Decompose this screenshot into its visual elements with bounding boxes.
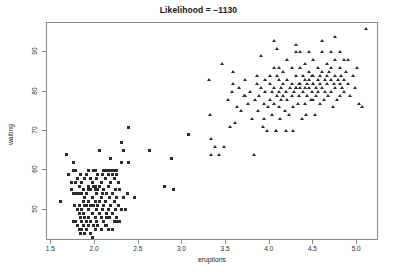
data-point-cluster-1 xyxy=(87,216,90,219)
data-point-cluster-1 xyxy=(80,208,83,211)
page-title: Likelihood = −1130 xyxy=(0,5,397,15)
data-point-cluster-2 xyxy=(265,129,269,132)
data-point-cluster-2 xyxy=(208,113,212,116)
data-point-cluster-2 xyxy=(338,50,342,53)
data-point-cluster-1 xyxy=(107,208,110,211)
data-point-cluster-2 xyxy=(262,102,266,105)
data-point-cluster-2 xyxy=(268,82,272,85)
data-point-cluster-2 xyxy=(288,86,292,89)
data-point-cluster-1 xyxy=(94,228,97,231)
data-point-cluster-1 xyxy=(82,188,85,191)
data-point-cluster-1 xyxy=(70,188,73,191)
data-point-cluster-2 xyxy=(283,109,287,112)
data-point-cluster-2 xyxy=(226,98,230,101)
data-point-cluster-1 xyxy=(94,185,97,188)
data-point-cluster-1 xyxy=(111,212,114,215)
data-point-cluster-2 xyxy=(300,117,304,120)
data-point-cluster-1 xyxy=(87,200,90,203)
data-point-cluster-2 xyxy=(275,94,279,97)
data-point-cluster-1 xyxy=(108,196,111,199)
x-tick-mark xyxy=(181,240,182,244)
data-point-cluster-2 xyxy=(323,78,327,81)
data-point-cluster-1 xyxy=(111,173,114,176)
data-point-cluster-1 xyxy=(87,224,90,227)
data-point-cluster-2 xyxy=(228,125,232,128)
data-point-cluster-2 xyxy=(322,98,326,101)
data-point-cluster-2 xyxy=(333,35,337,38)
data-point-cluster-1 xyxy=(80,192,83,195)
data-point-cluster-1 xyxy=(82,224,85,227)
data-point-cluster-1 xyxy=(74,169,77,172)
data-point-cluster-1 xyxy=(105,224,108,227)
data-point-cluster-2 xyxy=(355,66,359,69)
data-point-cluster-2 xyxy=(263,78,267,81)
data-point-cluster-2 xyxy=(259,54,263,57)
data-point-cluster-1 xyxy=(104,177,107,180)
data-point-cluster-2 xyxy=(303,62,307,65)
data-point-cluster-2 xyxy=(279,98,283,101)
data-point-cluster-1 xyxy=(124,208,127,211)
data-point-cluster-1 xyxy=(87,208,90,211)
data-point-cluster-2 xyxy=(310,90,314,93)
data-point-cluster-2 xyxy=(239,109,243,112)
y-tick-mark xyxy=(42,169,46,170)
data-point-cluster-1 xyxy=(98,200,101,203)
data-point-cluster-2 xyxy=(235,105,239,108)
data-point-cluster-2 xyxy=(207,78,211,81)
data-point-cluster-2 xyxy=(285,58,289,61)
data-point-cluster-2 xyxy=(292,90,296,93)
data-point-cluster-1 xyxy=(111,192,114,195)
y-axis-title: waiting xyxy=(7,115,14,155)
data-point-cluster-2 xyxy=(336,78,340,81)
y-tick-mark xyxy=(42,209,46,210)
data-point-cluster-1 xyxy=(85,228,88,231)
data-point-cluster-1 xyxy=(74,220,77,223)
data-point-cluster-2 xyxy=(230,90,234,93)
data-point-cluster-1 xyxy=(95,208,98,211)
data-point-cluster-2 xyxy=(316,78,320,81)
y-tick-label: 80 xyxy=(31,85,38,97)
data-point-cluster-2 xyxy=(217,153,221,156)
data-point-cluster-1 xyxy=(91,181,94,184)
data-point-cluster-1 xyxy=(120,208,123,211)
y-tick-mark xyxy=(42,91,46,92)
data-point-cluster-2 xyxy=(329,90,333,93)
data-point-cluster-1 xyxy=(109,157,112,160)
data-point-cluster-2 xyxy=(272,39,276,42)
data-point-cluster-2 xyxy=(231,82,235,85)
data-point-cluster-2 xyxy=(297,94,301,97)
data-point-cluster-2 xyxy=(296,102,300,105)
x-tick-mark xyxy=(94,240,95,244)
data-point-cluster-1 xyxy=(89,232,92,235)
data-point-cluster-2 xyxy=(325,74,329,77)
data-point-cluster-1 xyxy=(98,149,101,152)
data-point-cluster-1 xyxy=(102,220,105,223)
data-point-cluster-2 xyxy=(346,58,350,61)
data-point-cluster-1 xyxy=(85,192,88,195)
data-point-cluster-2 xyxy=(353,86,357,89)
data-point-cluster-2 xyxy=(252,153,256,156)
data-point-cluster-1 xyxy=(98,212,101,215)
x-tick-mark xyxy=(356,240,357,244)
data-point-cluster-1 xyxy=(133,196,136,199)
data-point-cluster-2 xyxy=(316,66,320,69)
data-point-cluster-1 xyxy=(120,161,123,164)
data-point-cluster-1 xyxy=(79,173,82,176)
chart-canvas: Likelihood = −1130 1.52.02.53.03.54.04.5… xyxy=(0,0,397,276)
data-point-cluster-2 xyxy=(338,94,342,97)
data-point-cluster-1 xyxy=(83,232,86,235)
data-point-cluster-1 xyxy=(100,228,103,231)
data-point-cluster-2 xyxy=(243,78,247,81)
data-point-cluster-2 xyxy=(257,94,261,97)
data-point-cluster-2 xyxy=(346,82,350,85)
x-tick-mark xyxy=(50,240,51,244)
data-point-cluster-1 xyxy=(109,204,112,207)
data-point-cluster-1 xyxy=(87,169,90,172)
data-point-cluster-1 xyxy=(79,216,82,219)
data-point-cluster-2 xyxy=(243,94,247,97)
data-point-cluster-1 xyxy=(79,232,82,235)
data-point-cluster-2 xyxy=(248,90,252,93)
data-point-cluster-2 xyxy=(342,90,346,93)
data-point-cluster-2 xyxy=(311,58,315,61)
x-tick-label: 3.5 xyxy=(221,245,230,252)
